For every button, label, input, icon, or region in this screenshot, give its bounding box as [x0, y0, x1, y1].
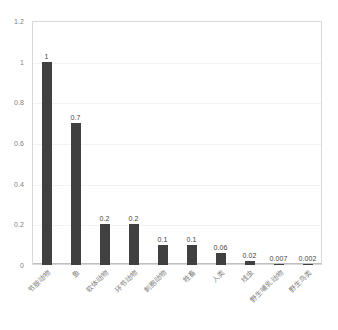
- x-axis-tick: 节肢动物: [32, 267, 61, 329]
- bar-value-label: 1: [45, 53, 49, 60]
- bar-group: 0.02: [235, 21, 264, 265]
- x-axis-tick-label: 线虫: [239, 268, 255, 284]
- bar-group: 0.002: [293, 21, 322, 265]
- x-axis-tick-label: 节肢动物: [26, 268, 52, 294]
- x-axis-tick: 鱼: [61, 267, 90, 329]
- bar[interactable]: [100, 224, 110, 265]
- x-axis-tick: 野生鸟类: [293, 267, 322, 329]
- x-axis-tick: 人类: [206, 267, 235, 329]
- bar[interactable]: [245, 261, 255, 265]
- y-axis-tick-label: 0: [20, 262, 24, 269]
- bar[interactable]: [274, 264, 284, 265]
- x-axis-tick-label: 牲畜: [181, 268, 197, 284]
- bar-group: 0.1: [177, 21, 206, 265]
- bar[interactable]: [42, 62, 52, 265]
- bar-group: 0.2: [119, 21, 148, 265]
- bar-group: 0.06: [206, 21, 235, 265]
- y-axis-tick-label: 0.6: [14, 140, 24, 147]
- x-axis-tick: 牲畜: [177, 267, 206, 329]
- bar[interactable]: [216, 253, 226, 265]
- bar-group: 1: [32, 21, 61, 265]
- bar-value-label: 0.1: [157, 236, 167, 243]
- bar-group: 0.2: [90, 21, 119, 265]
- bar-value-label: 0.1: [186, 236, 196, 243]
- bar-value-label: 0.7: [70, 114, 80, 121]
- bar-value-label: 0.2: [128, 215, 138, 222]
- bar[interactable]: [187, 245, 197, 265]
- x-axis-tick-label: 人类: [210, 268, 226, 284]
- bar-group: 0.1: [148, 21, 177, 265]
- y-axis-tick-label: 1.2: [14, 18, 24, 25]
- bar[interactable]: [129, 224, 139, 265]
- bar-chart: 00.20.40.60.811.2 10.70.20.20.10.10.060.…: [0, 0, 338, 330]
- bar-value-label: 0.06: [213, 244, 227, 251]
- bar-value-label: 0.02: [242, 252, 256, 259]
- bar-group: 0.7: [61, 21, 90, 265]
- y-axis-tick-label: 0.2: [14, 221, 24, 228]
- bar[interactable]: [303, 264, 313, 265]
- bar-value-label: 0.2: [99, 215, 109, 222]
- x-axis-tick: 野生哺乳动物: [264, 267, 293, 329]
- y-axis: 00.20.40.60.811.2: [0, 21, 28, 265]
- bar-group: 0.007: [264, 21, 293, 265]
- bar-value-label: 0.007: [269, 255, 287, 262]
- x-axis-tick: 软体动物: [90, 267, 119, 329]
- bar-value-label: 0.002: [298, 255, 316, 262]
- bars-layer: 10.70.20.20.10.10.060.020.0070.002: [32, 21, 322, 265]
- y-axis-tick-label: 0.4: [14, 180, 24, 187]
- bar[interactable]: [71, 123, 81, 265]
- y-axis-tick-label: 1: [20, 58, 24, 65]
- x-axis-tick: 环节动物: [119, 267, 148, 329]
- x-axis-tick: 刺胞动物: [148, 267, 177, 329]
- bar[interactable]: [158, 245, 168, 265]
- x-axis-tick-label: 鱼: [70, 268, 81, 279]
- y-axis-tick-label: 0.8: [14, 99, 24, 106]
- x-axis: 节肢动物鱼软体动物环节动物刺胞动物牲畜人类线虫野生哺乳动物野生鸟类: [32, 267, 322, 329]
